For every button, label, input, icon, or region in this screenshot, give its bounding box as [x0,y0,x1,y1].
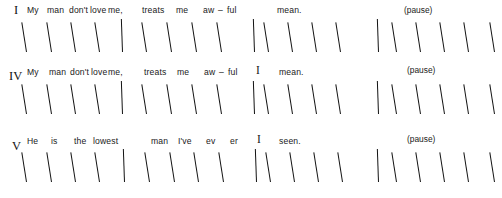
beat-stroke [21,152,27,182]
lyric-syllable: ful [227,6,237,15]
beat-stroke [265,152,271,182]
beat-stroke [289,152,295,182]
measure-barline [377,149,379,182]
beat-stroke [335,22,341,52]
beat-stroke [391,84,397,114]
inline-phrase-marker: I [256,65,260,77]
lyric-syllable: treats [144,68,166,77]
beat-stroke [391,152,397,182]
beat-stroke [335,84,341,114]
lyric-syllable: man [151,137,168,146]
lyric-syllable: me, [108,68,123,77]
lyric-syllable: ev [206,137,215,146]
lyric-syllable: lowest [93,137,118,146]
beat-stroke [70,152,76,182]
beat-stroke [94,152,100,182]
beat-stroke [141,22,147,52]
beat-stroke [489,22,495,52]
stave-v: VHeisthelowestmanI'veeverseen.I(pause) [0,130,502,186]
measure-barline [123,149,125,182]
beat-stroke [415,84,421,114]
measure-barline [377,81,379,114]
beat-stroke [216,22,222,52]
measure-barline [255,149,257,182]
beat-stroke [489,152,495,182]
beat-stroke [94,84,100,114]
lyric-syllable: mean. [279,68,304,77]
beat-stroke [46,152,52,182]
lyric-syllable: mean. [277,6,302,15]
beat-stroke [216,84,222,114]
beat-stroke [46,84,52,114]
beat-stroke [463,22,469,52]
beat-stroke [463,152,469,182]
beat-stroke [439,152,445,182]
beat-stroke [313,152,319,182]
lyric-syllable: I've [178,137,192,146]
lyric-syllable: me [176,6,188,15]
beat-stroke [70,22,76,52]
lyric-syllable: man [47,6,64,15]
beat-stroke [415,22,421,52]
lyric-syllable: the [74,137,86,146]
beat-stroke [263,22,269,52]
beat-stroke [311,84,317,114]
beat-stroke [463,84,469,114]
beat-stroke [439,84,445,114]
lyric-syllable: My [27,68,39,77]
transcription-sheet: IMymandon'tloveme,treatsmeaw–fulmean.(pa… [0,0,502,198]
lyric-syllable: er [230,137,238,146]
measure-barline [377,19,379,52]
lyric-syllable: don't [69,6,88,15]
lyric-syllable: don't [70,68,89,77]
lyric-syllable: love [91,68,107,77]
beat-stroke [166,84,172,114]
beat-stroke [193,152,199,182]
stage-direction: (pause) [407,135,435,143]
lyric-syllable: me, [108,6,123,15]
lyric-syllable: – [219,68,224,77]
beat-stroke [191,22,197,52]
lyric-syllable: aw [203,6,214,15]
lyric-syllable: treats [142,6,164,15]
lyric-syllable: My [27,6,39,15]
stave-label: V [12,140,21,153]
beat-stroke [166,22,172,52]
stave-iv: IVMymandon'tloveme,treatsmeaw–fulmean.I(… [0,62,502,118]
lyric-syllable: love [90,6,106,15]
beat-stroke [287,84,293,114]
stave-i: IMymandon'tloveme,treatsmeaw–fulmean.(pa… [0,0,502,56]
lyric-syllable: seen. [279,137,301,146]
lyric-syllable: He [27,137,38,146]
lyric-syllable: me [177,68,189,77]
measure-barline [121,19,123,52]
beat-stroke [311,22,317,52]
beat-stroke [46,22,52,52]
beat-stroke [141,84,147,114]
measure-barline [253,81,255,114]
measure-barline [253,19,255,52]
inline-phrase-marker: I [257,134,261,146]
beat-stroke [439,22,445,52]
lyric-syllable: is [51,137,58,146]
stave-label: I [14,4,18,17]
beat-stroke [94,22,100,52]
lyric-syllable: aw [204,68,215,77]
beat-stroke [263,84,269,114]
beat-stroke [337,152,343,182]
measure-barline [121,81,123,114]
stage-direction: (pause) [404,6,432,14]
beat-stroke [21,22,27,52]
beat-stroke [169,152,175,182]
beat-stroke [489,84,495,114]
beat-stroke [415,152,421,182]
beat-stroke [191,84,197,114]
beat-stroke [144,152,150,182]
lyric-syllable: – [218,6,223,15]
lyric-syllable: man [49,68,66,77]
stave-label: IV [9,70,22,83]
beat-stroke [287,22,293,52]
stage-direction: (pause) [407,66,435,74]
beat-stroke [218,152,224,182]
beat-stroke [70,84,76,114]
